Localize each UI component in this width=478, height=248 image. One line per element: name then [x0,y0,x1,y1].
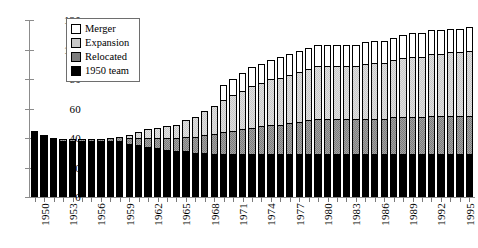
bar-segment-relocated [59,139,66,140]
bar-segment-expansion [437,54,444,116]
bar-segment-merger [390,38,397,60]
legend-item-expansion: Expansion [71,36,135,50]
bar-segment-expansion [428,54,435,116]
x-tick [337,197,338,202]
bar-segment-expansion [296,72,303,122]
bar [40,135,47,197]
x-tick [365,197,366,202]
bar-segment-1950-team [466,154,473,197]
x-tick [261,197,262,202]
bar-segment-1950-team [277,154,284,197]
bar-segment-relocated [466,116,473,154]
x-tick [63,197,64,202]
x-tick-label: 1956 [95,203,107,226]
bar-segment-1950-team [267,154,274,197]
bar-segment-1950-team [437,154,444,197]
bar-segment-merger [466,27,473,51]
bar [182,120,189,197]
bar-segment-1950-team [192,153,199,197]
bar [456,29,463,197]
bar-segment-merger [371,41,378,63]
bar-segment-expansion [352,66,359,119]
bar-segment-expansion [409,57,416,117]
bar [267,60,274,197]
bar-segment-relocated [211,134,218,155]
x-tick [54,197,55,202]
bar [69,139,76,197]
bar [78,139,85,197]
bar-segment-1950-team [135,145,142,197]
bar-segment-merger [239,73,246,91]
bar [248,67,255,197]
x-tick [233,197,234,202]
bar-segment-relocated [116,137,123,141]
bar [173,125,180,197]
bar-segment-relocated [78,139,85,140]
x-tick [120,197,121,202]
x-tick [167,197,168,202]
bar [59,139,66,197]
x-tick [431,197,432,202]
bar-segment-expansion [267,79,274,125]
bar-segment-1950-team [324,154,331,197]
bar-segment-expansion [135,132,142,138]
x-tick-label: 1965 [180,203,192,226]
x-tick-label: 1986 [379,203,391,226]
bar-segment-expansion [192,117,199,136]
bar-segment-expansion [447,52,454,115]
x-tick [148,197,149,202]
bar [362,42,369,197]
x-tick [384,197,385,202]
bar-segment-1950-team [78,141,85,197]
bar [409,33,416,197]
bar-segment-relocated [220,132,227,154]
bar-segment-relocated [418,117,425,154]
bar-segment-relocated [248,128,255,155]
bar-segment-1950-team [258,154,265,197]
x-axis-labels: 1950195319561959196219651968197119741977… [30,203,474,248]
bar-segment-1950-team [314,154,321,197]
bar-segment-1950-team [399,154,406,197]
bar-segment-relocated [314,119,321,154]
bar-segment-1950-team [59,141,66,197]
bar-segment-relocated [258,126,265,154]
bar-segment-merger [314,45,321,66]
x-tick [460,197,461,202]
bar [418,33,425,197]
x-tick-label: 1953 [67,203,79,226]
bar-segment-1950-team [371,154,378,197]
bar-segment-expansion [163,126,170,138]
bar-segment-relocated [456,116,463,154]
bar-segment-merger [428,30,435,54]
x-tick [469,197,470,202]
x-tick-label: 1971 [237,203,249,226]
bar-segment-1950-team [50,138,57,197]
bar-segment-merger [418,33,425,57]
x-tick [346,197,347,202]
bar-segment-merger [381,41,388,63]
bar [211,106,218,197]
bar-segment-relocated [390,117,397,154]
bar-segment-expansion [211,106,218,134]
bar-segment-expansion [144,129,151,138]
x-tick [139,197,140,202]
bar-segment-1950-team [381,154,388,197]
bar-segment-relocated [173,138,180,151]
bar-segment-expansion [371,63,378,119]
x-tick [290,197,291,202]
bar-segment-relocated [229,131,236,155]
bar-segment-expansion [456,52,463,115]
x-tick [280,197,281,202]
bar-segment-1950-team [390,154,397,197]
bar-segment-relocated [192,137,199,153]
bar [201,111,208,197]
bar-segment-relocated [107,138,114,141]
bar-segment-expansion [173,125,180,138]
bar-segment-relocated [399,117,406,154]
legend-swatch-relocated [71,52,81,62]
bar-segment-1950-team [418,154,425,197]
legend-swatch-merger [71,24,81,34]
bar-segment-relocated [333,119,340,154]
bar-segment-expansion [239,91,246,129]
x-tick [176,197,177,202]
